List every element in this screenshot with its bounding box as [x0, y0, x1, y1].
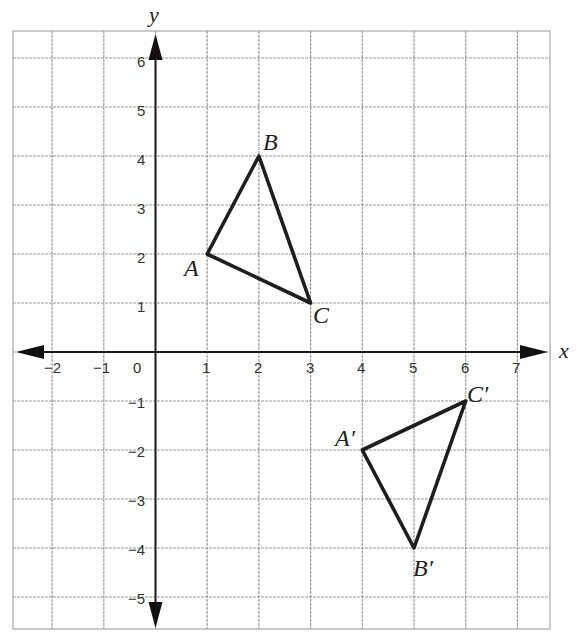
x-tick-label: 0: [133, 359, 141, 376]
y-tick-label: −5: [128, 590, 145, 607]
y-tick-label: 6: [137, 53, 145, 70]
x-tick-label: 6: [461, 359, 469, 376]
y-tick-label: −3: [128, 492, 145, 509]
y-tick-label: −4: [128, 541, 145, 558]
y-tick-label: 5: [137, 102, 145, 119]
vertex-label-c: C: [313, 302, 330, 328]
y-axis-label: y: [147, 2, 159, 27]
vertex-label-b-prime: B′: [413, 555, 434, 581]
x-tick-label: −1: [93, 359, 110, 376]
x-axis-label: x: [558, 338, 569, 363]
y-tick-label: 1: [137, 298, 145, 315]
vertex-label-a: A: [182, 255, 199, 281]
x-axis-left-arrow-icon: [16, 345, 44, 359]
x-tick-label: 7: [512, 359, 520, 376]
grid: [13, 31, 550, 629]
x-tick-label: 4: [357, 359, 365, 376]
y-axis-up-arrow-icon: [149, 34, 163, 60]
x-tick-label: 1: [202, 359, 210, 376]
tick-labels: −2 −1 0 1 2 3 4 5 6 7 6 5 4 3 2 1 −1 −2 …: [44, 53, 520, 607]
y-axis-down-arrow-icon: [149, 602, 163, 628]
grid-border: [13, 31, 550, 629]
coordinate-plane: x y −2 −1 0 1 2 3 4 5 6 7 6 5 4 3 2 1 −1…: [0, 0, 578, 638]
y-tick-label: 2: [137, 249, 145, 266]
vertex-label-a-prime: A′: [333, 425, 356, 451]
vertex-label-c-prime: C′: [467, 381, 489, 407]
vertex-label-b: B: [263, 129, 278, 155]
x-tick-label: 3: [306, 359, 314, 376]
y-tick-label: −1: [128, 394, 145, 411]
y-tick-label: 3: [137, 200, 145, 217]
y-tick-label: 4: [137, 151, 145, 168]
x-axis-right-arrow-icon: [520, 345, 548, 359]
x-tick-label: 5: [409, 359, 417, 376]
x-tick-label: −2: [44, 359, 61, 376]
y-tick-label: −2: [128, 443, 145, 460]
x-tick-label: 2: [254, 359, 262, 376]
